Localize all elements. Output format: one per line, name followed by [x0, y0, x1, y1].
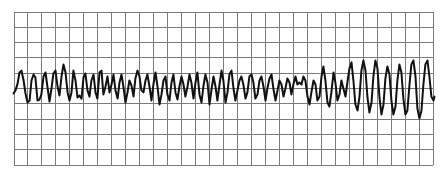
- waveform-chart: [0, 0, 444, 171]
